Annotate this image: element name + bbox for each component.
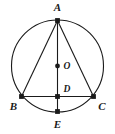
point-label-d: D xyxy=(63,84,71,94)
point-label-c: C xyxy=(98,100,106,112)
point-marker-o xyxy=(55,64,60,69)
point-label-a: A xyxy=(53,1,61,13)
point-label-b: B xyxy=(9,100,17,112)
point-label-o: O xyxy=(64,61,71,71)
point-marker-e xyxy=(55,109,60,114)
point-marker-a xyxy=(55,18,60,23)
point-marker-c xyxy=(91,94,96,99)
geometry-canvas: A B C O D E xyxy=(0,0,115,134)
point-label-e: E xyxy=(53,118,61,130)
point-marker-b xyxy=(19,94,24,99)
geometry-figure: A B C O D E xyxy=(0,0,115,134)
point-marker-d xyxy=(55,94,60,99)
